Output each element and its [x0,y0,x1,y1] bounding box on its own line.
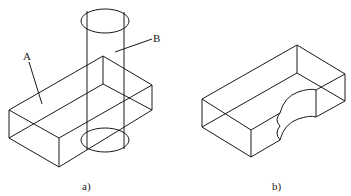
figure-a: A B a) [9,9,160,193]
label-a: A [23,50,31,62]
caption-a: a) [82,180,91,193]
block-a [9,56,152,167]
label-a-leader: A [23,50,42,104]
cylinder-b [81,9,129,152]
caption-b: b) [272,180,282,193]
diagram-canvas: A B a) b) [0,0,351,196]
label-b: B [153,32,160,44]
label-b-leader: B [115,32,160,52]
figure-b: b) [202,45,345,193]
